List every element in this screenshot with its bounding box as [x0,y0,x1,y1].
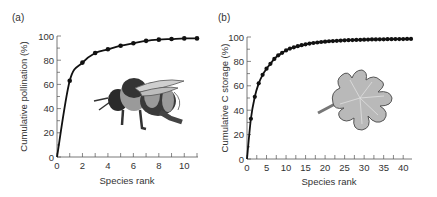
data-point [401,37,405,41]
data-point [374,37,378,41]
x-tick-label: 30 [359,162,370,173]
data-point [157,37,162,42]
y-tick-label: 40 [233,105,244,116]
data-point [253,95,257,99]
y-tick-label: 60 [43,79,54,90]
svg-text:(b): (b) [218,12,230,23]
data-point [257,81,261,85]
panel-label-a: (a) [12,12,24,23]
y-tick-label: 80 [43,55,54,66]
data-point [389,37,393,41]
data-point [409,37,413,41]
x-tick-label: 5 [264,162,269,173]
data-point [405,37,409,41]
x-tick-label: 25 [339,162,350,173]
data-point [144,39,149,44]
x-axis-label: Species rank [100,175,155,186]
y-tick-label: 20 [43,127,54,138]
data-point [339,38,343,42]
x-tick-label: 8 [156,160,161,171]
data-point [315,40,319,44]
x-tick-label: 0 [244,162,249,173]
data-point [350,38,354,42]
data-point [292,45,296,49]
data-point [382,37,386,41]
data-point [280,51,284,55]
data-point [195,36,200,41]
data-point [358,38,362,42]
data-point [268,62,272,66]
data-point [327,39,331,43]
data-point [284,48,288,52]
y-tick-label: 100 [228,32,244,43]
data-point [323,40,327,44]
data-point [80,60,85,65]
data-point [354,38,358,42]
data-point [370,37,374,41]
data-point [362,38,366,42]
data-point [261,73,265,77]
y-tick-label: 20 [233,129,244,140]
data-point [106,47,111,52]
svg-text:(a): (a) [12,12,24,23]
data-point [307,41,311,45]
y-axis-label: Cumulative C storage (%) [219,44,230,153]
y-tick-label: 80 [233,56,244,67]
data-point [319,40,323,44]
x-tick-label: 2 [80,160,85,171]
data-point [118,43,123,48]
x-tick-label: 4 [105,160,110,171]
y-tick-label: 0 [49,152,54,163]
y-tick-label: 60 [233,80,244,91]
data-point [303,42,307,46]
x-tick-label: 0 [54,160,59,171]
data-point [249,117,253,121]
figure: 0204060801000246810Species rankCumulativ… [0,0,437,197]
data-point [131,41,136,46]
x-tick-label: 10 [179,160,190,171]
data-point [346,38,350,42]
x-tick-label: 20 [320,162,331,173]
data-point [378,37,382,41]
data-point [296,44,300,48]
data-point [343,38,347,42]
x-axis-label: Species rank [302,176,357,187]
data-point [264,67,268,71]
data-point [276,53,280,57]
data-point [331,39,335,43]
x-tick-label: 15 [300,162,311,173]
data-point [385,37,389,41]
data-point [397,37,401,41]
y-tick-label: 40 [43,103,54,114]
data-point [300,43,304,47]
data-point [93,51,98,56]
y-tick-label: 100 [38,31,54,42]
data-point [366,37,370,41]
data-point [311,41,315,45]
x-tick-label: 40 [398,162,409,173]
panel-label-b: (b) [218,12,230,23]
data-point [288,46,292,50]
data-point [182,36,187,41]
data-point [67,78,72,83]
data-point [272,57,276,61]
bumblebee-illustration [94,78,184,129]
data-point [335,39,339,43]
x-tick-label: 35 [378,162,389,173]
data-point [169,37,174,42]
x-tick-label: 10 [281,162,292,173]
x-tick-label: 6 [131,160,136,171]
data-point [393,37,397,41]
leaf-illustration [318,70,392,130]
y-tick-label: 0 [239,154,244,165]
y-axis-label: Cumulative pollination (%) [18,41,29,151]
